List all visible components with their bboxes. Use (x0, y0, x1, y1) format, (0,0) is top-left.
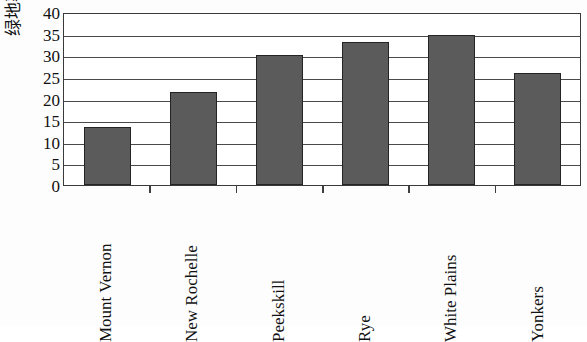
bar[interactable] (342, 42, 389, 185)
x-axis-label: Mount Vernon (95, 214, 117, 342)
y-tick-label: 20 (20, 91, 60, 108)
bar-slot (408, 14, 494, 185)
y-tick-label: 40 (20, 5, 60, 22)
bar-slot (494, 14, 580, 185)
y-axis-tick-labels: 0510152025303540 (20, 13, 60, 186)
x-label-slot: White Plains (408, 196, 494, 324)
bar[interactable] (514, 73, 561, 185)
x-label-slot: New Rochelle (149, 196, 235, 324)
y-tick-label: 5 (20, 156, 60, 173)
plot-area (63, 13, 581, 186)
x-axis-tick (149, 186, 151, 193)
y-tick-label: 30 (20, 48, 60, 65)
bar[interactable] (428, 35, 475, 186)
x-axis-ticks (63, 186, 581, 194)
x-axis-label: Rye (354, 214, 376, 342)
x-label-slot: Mount Vernon (63, 196, 149, 324)
y-tick-label: 10 (20, 134, 60, 151)
x-label-slot: Rye (322, 196, 408, 324)
bars-layer (64, 14, 580, 185)
x-axis-category-labels: Mount VernonNew RochellePeekskillRyeWhit… (63, 196, 581, 324)
bar[interactable] (170, 92, 217, 185)
bar-slot (64, 14, 150, 185)
y-tick-label: 35 (20, 26, 60, 43)
bar-slot (150, 14, 236, 185)
bar-slot (236, 14, 322, 185)
x-axis-tick (236, 186, 238, 193)
bar-slot (322, 14, 408, 185)
x-axis-label: New Rochelle (181, 214, 203, 342)
x-axis-tick (495, 186, 497, 193)
x-label-slot: Peekskill (236, 196, 322, 324)
y-tick-label: 0 (20, 178, 60, 195)
bar[interactable] (256, 55, 303, 185)
x-label-slot: Yonkers (495, 196, 581, 324)
x-axis-label: Peekskill (268, 214, 290, 342)
y-tick-label: 25 (20, 69, 60, 86)
x-axis-tick (408, 186, 410, 193)
y-tick-label: 15 (20, 113, 60, 130)
x-axis-label: White Plains (440, 214, 462, 342)
x-axis-label: Yonkers (527, 214, 549, 342)
bar[interactable] (84, 127, 131, 185)
x-axis-tick (322, 186, 324, 193)
